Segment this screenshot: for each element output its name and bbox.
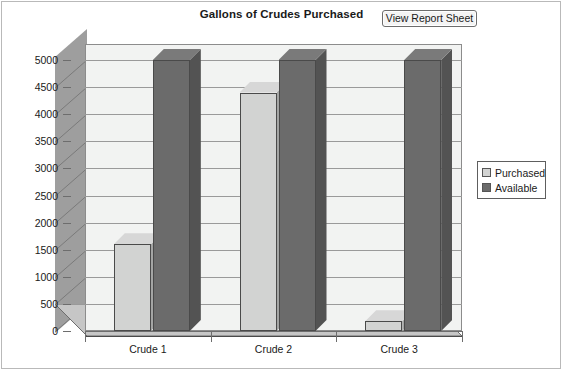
bar-front-face — [404, 60, 441, 331]
y-axis-tick-label: 2000 — [14, 217, 58, 229]
y-axis-tick — [63, 60, 71, 61]
chart-legend: Purchased Available — [477, 161, 546, 199]
bar-front-face — [365, 321, 402, 331]
bar-available-crude-1[interactable] — [153, 49, 201, 331]
x-axis-tick — [85, 331, 86, 342]
y-axis-tick-label: 1500 — [14, 244, 58, 256]
bar-front-face — [279, 60, 316, 331]
bar-side-face — [190, 49, 201, 331]
y-axis-tick — [63, 87, 71, 88]
plot-left-wall — [55, 29, 87, 333]
y-axis-tick-label: 3000 — [14, 162, 58, 174]
bar-available-crude-3[interactable] — [404, 49, 452, 331]
plot-area — [85, 44, 462, 331]
x-axis-tick — [462, 331, 463, 342]
x-axis-category-label: Crude 3 — [336, 343, 462, 355]
y-axis-tick-label: 5000 — [14, 54, 58, 66]
legend-swatch-purchased — [482, 168, 491, 177]
legend-item-purchased[interactable]: Purchased — [482, 165, 541, 180]
y-axis-tick — [63, 331, 71, 332]
bar-front-face — [153, 60, 190, 331]
y-axis-tick-label: 4500 — [14, 81, 58, 93]
y-axis-tick — [63, 114, 71, 115]
bar-front-face — [114, 244, 151, 331]
bar-side-face — [441, 49, 452, 331]
x-axis-tick — [211, 331, 212, 342]
y-axis-labels: 5000450040003500300025002000150010005000 — [14, 0, 58, 371]
y-axis-tick-label: 1000 — [14, 271, 58, 283]
bar-available-crude-2[interactable] — [279, 49, 327, 331]
y-axis-tick — [63, 141, 71, 142]
view-report-sheet-button[interactable]: View Report Sheet — [382, 10, 477, 27]
bar-side-face — [316, 49, 327, 331]
legend-label-available: Available — [495, 182, 537, 194]
y-axis-tick-label: 500 — [14, 298, 58, 310]
y-axis-tick-label: 3500 — [14, 135, 58, 147]
y-axis-tick — [63, 277, 71, 278]
bar-front-face — [240, 93, 277, 331]
legend-label-purchased: Purchased — [495, 167, 545, 179]
legend-item-available[interactable]: Available — [482, 180, 541, 195]
y-axis-tick — [63, 250, 71, 251]
y-axis-tick-label: 0 — [14, 325, 58, 337]
x-axis-category-label: Crude 2 — [211, 343, 337, 355]
y-axis-tick — [63, 168, 71, 169]
y-axis-tick — [63, 196, 71, 197]
y-axis-tick — [63, 223, 71, 224]
x-axis-line — [85, 336, 462, 337]
y-axis-tick-label: 4000 — [14, 108, 58, 120]
chart-title: Gallons of Crudes Purchased — [0, 8, 563, 20]
x-axis-category-label: Crude 1 — [85, 343, 211, 355]
gridline — [85, 331, 462, 332]
legend-swatch-available — [482, 183, 491, 192]
y-axis-tick-label: 2500 — [14, 190, 58, 202]
y-axis-tick — [63, 304, 71, 305]
x-axis-tick — [336, 331, 337, 342]
